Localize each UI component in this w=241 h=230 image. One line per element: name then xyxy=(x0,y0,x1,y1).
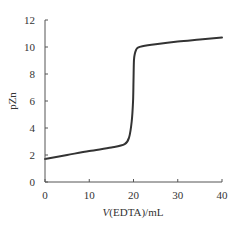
y-tick-label: 12 xyxy=(24,14,35,26)
x-tick-label: 20 xyxy=(128,189,140,201)
x-tick-label: 10 xyxy=(84,189,96,201)
titration-chart: 024681012 010203040 pZn V(EDTA)/mL xyxy=(0,0,241,230)
y-tick-label: 4 xyxy=(30,122,36,134)
plot-area xyxy=(45,38,222,160)
y-tick-label: 6 xyxy=(30,95,36,107)
x-tick-label: 0 xyxy=(42,189,48,201)
x-axis: 010203040 xyxy=(42,179,228,201)
y-tick-label: 8 xyxy=(30,68,36,80)
y-tick-label: 0 xyxy=(30,176,36,188)
x-tick-label: 30 xyxy=(172,189,184,201)
y-axis: 024681012 xyxy=(24,14,48,188)
y-tick-label: 10 xyxy=(24,41,36,53)
titration-curve xyxy=(45,38,222,160)
x-axis-title-rest: (EDTA)/mL xyxy=(109,206,163,219)
x-tick-label: 40 xyxy=(217,189,229,201)
x-axis-title: V(EDTA)/mL xyxy=(103,206,164,219)
y-axis-title: pZn xyxy=(6,92,18,110)
y-tick-label: 2 xyxy=(30,149,36,161)
